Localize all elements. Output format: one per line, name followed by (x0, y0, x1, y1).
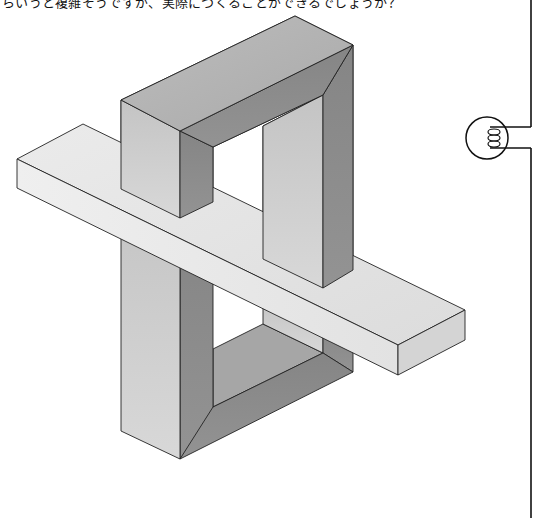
binding-ring-icon (466, 117, 508, 159)
impossible-figure (0, 0, 534, 518)
margin-marker (466, 0, 531, 518)
